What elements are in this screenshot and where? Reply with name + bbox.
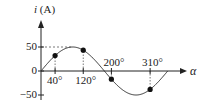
data-point-marker <box>81 48 86 53</box>
data-point-marker <box>148 87 153 92</box>
x-axis-arrow-icon <box>180 68 187 74</box>
marked-points <box>52 48 152 92</box>
y-tick-label: −50 <box>20 89 37 100</box>
x-tick-label: 40° <box>47 75 62 86</box>
y-axis-unit: (A) <box>40 3 55 15</box>
y-axis-label: i (A) <box>34 4 55 15</box>
data-point-marker <box>109 77 114 82</box>
y-tick-label: 0 <box>32 65 38 76</box>
y-axis-arrow-icon <box>38 20 44 28</box>
x-tick-label: 310° <box>142 57 163 68</box>
y-tick-label: 50 <box>26 41 37 52</box>
x-tick-label: 200° <box>103 57 124 68</box>
x-axis-label: α <box>190 65 196 77</box>
data-point-marker <box>52 53 57 58</box>
y-axis-variable: i <box>34 3 37 15</box>
x-tick-label: 120° <box>75 75 96 86</box>
